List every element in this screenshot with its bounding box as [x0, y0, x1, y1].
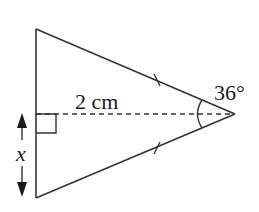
height-label: 2 cm: [75, 89, 118, 114]
right-angle-marker: [36, 114, 56, 133]
upper-equal-side: [36, 29, 235, 114]
triangle-diagram: 2 cm 36° x: [0, 0, 259, 212]
apex-angle-label: 36°: [214, 80, 245, 105]
base-variable-label: x: [15, 141, 26, 166]
arrow-down-icon: [17, 182, 27, 197]
arrow-up-icon: [17, 113, 27, 128]
lower-equal-side: [36, 114, 235, 198]
